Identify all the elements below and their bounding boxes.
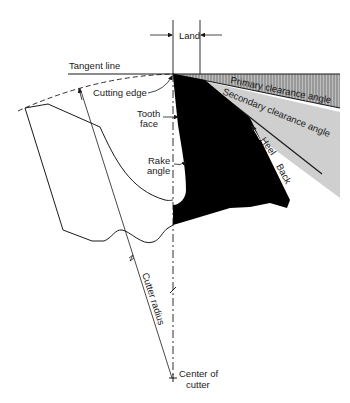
tangent-line-label: Tangent line <box>69 60 120 71</box>
center-of-cutter-label-1: Center of <box>179 368 218 379</box>
cutter-tooth-diagram: Land Tangent line Cutting edge Tooth fac… <box>0 0 350 403</box>
land-label: Land <box>179 30 200 41</box>
rake-angle-label-2: angle <box>147 165 170 176</box>
cutting-edge-leader <box>148 76 172 93</box>
center-cross-icon <box>169 374 177 382</box>
cutter-radius-label: Cutter radius <box>140 271 167 326</box>
tooth-face-label-2: face <box>140 118 158 129</box>
cutting-edge-label: Cutting edge <box>93 87 147 98</box>
cutter-radius-line <box>80 88 172 378</box>
center-of-cutter-label-2: cutter <box>186 379 210 390</box>
